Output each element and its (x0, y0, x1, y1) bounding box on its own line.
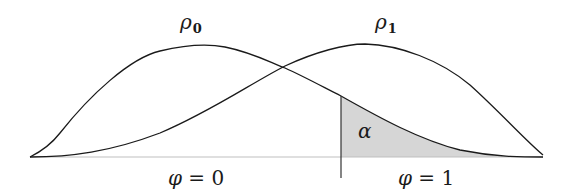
phi-zero-value: = 0 (182, 166, 224, 190)
phi-symbol: φ (168, 166, 182, 190)
rho0-subscript: 0 (193, 21, 202, 36)
rho0-curve (30, 45, 543, 157)
phi-one-label: φ = 1 (398, 166, 454, 190)
rho1-subscript: 1 (388, 21, 397, 36)
rho0-label: ρ0 (180, 10, 202, 36)
rho1-label: ρ1 (375, 10, 397, 36)
phi-zero-label: φ = 0 (168, 166, 224, 190)
phi-one-value: = 1 (412, 166, 454, 190)
hypothesis-test-diagram: ρ0 ρ1 α φ = 0 φ = 1 (0, 0, 573, 193)
phi-symbol: φ (398, 166, 412, 190)
alpha-label: α (358, 119, 372, 143)
density-plot (0, 0, 573, 193)
rho1-symbol: ρ (375, 10, 387, 34)
rho1-curve (30, 44, 543, 157)
rho0-symbol: ρ (180, 10, 192, 34)
